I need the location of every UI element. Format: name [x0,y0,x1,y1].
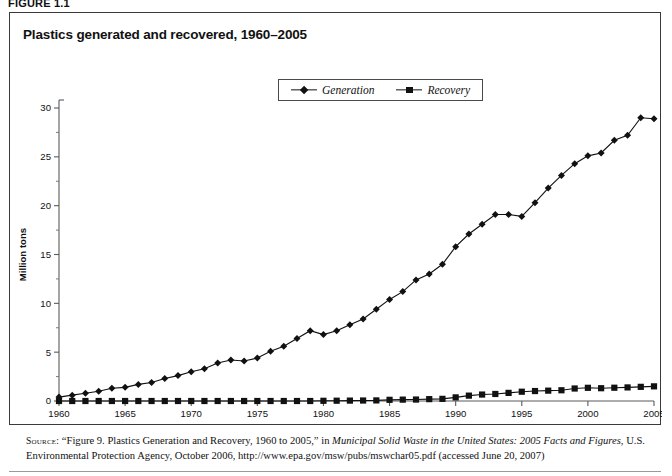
data-point-generation [227,356,234,363]
data-point-generation [122,384,129,391]
data-point-recovery [122,398,128,404]
x-axis-title: Year [346,423,367,424]
data-point-recovery [624,384,630,390]
data-point-generation [333,327,340,334]
data-point-recovery [492,391,498,397]
data-point-generation [148,379,155,386]
series-line-recovery [59,386,654,401]
x-tick-label: 2005 [643,408,662,419]
square-marker-icon [406,87,412,93]
data-point-recovery [56,398,62,404]
data-point-recovery [215,398,221,404]
data-point-recovery [267,398,273,404]
data-point-recovery [135,398,141,404]
data-point-recovery [426,396,432,402]
data-point-recovery [545,388,551,394]
data-point-recovery [294,398,300,404]
x-tick-label: 2000 [577,408,598,419]
x-tick-label: 1970 [181,408,202,419]
data-point-generation [214,359,221,366]
data-point-recovery [162,398,168,404]
data-point-recovery [479,391,485,397]
data-point-recovery [360,397,366,403]
data-point-recovery [96,398,102,404]
y-tick-label: 30 [40,102,51,113]
data-point-recovery [439,396,445,402]
data-point-recovery [466,393,472,399]
y-tick-label: 15 [40,249,51,260]
data-point-recovery [638,384,644,390]
data-point-generation [188,368,195,375]
data-point-recovery [386,397,392,403]
x-tick-label: 1995 [511,408,532,419]
data-point-generation [294,335,301,342]
data-point-recovery [373,397,379,403]
y-tick-label: 25 [40,151,51,162]
x-tick-label: 1965 [114,408,135,419]
y-tick-label: 20 [40,200,51,211]
data-point-recovery [241,398,247,404]
data-point-recovery [572,385,578,391]
data-point-recovery [558,387,564,393]
x-tick-label: 1980 [313,408,334,419]
data-point-recovery [413,396,419,402]
chart-series-group [56,114,658,404]
source-kicker: Source: [26,435,59,446]
data-point-recovery [519,389,525,395]
data-point-recovery [320,398,326,404]
data-point-recovery [611,385,617,391]
chart-axis-labels: 0510152025301960196519701975198019851990… [17,102,662,424]
source-publication-title: Municipal Solid Waste in the United Stat… [332,435,621,446]
data-point-generation [307,327,314,334]
data-point-recovery [453,394,459,400]
data-point-generation [108,385,115,392]
x-tick-label: 1985 [379,408,400,419]
data-point-recovery [254,398,260,404]
data-point-generation [254,355,261,362]
data-point-recovery [400,397,406,403]
data-point-recovery [307,398,313,404]
data-point-generation [280,343,287,350]
x-tick-label: 1960 [48,408,69,419]
data-point-recovery [228,398,234,404]
figure-label: FIGURE 1.1 [8,0,70,9]
series-line-generation [59,118,654,397]
data-point-recovery [188,398,194,404]
data-point-recovery [585,385,591,391]
data-point-recovery [281,398,287,404]
data-point-generation [95,388,102,395]
bottom-divider [9,471,661,472]
source-text-part1: “Figure 9. Plastics Generation and Recov… [62,435,332,446]
data-point-recovery [82,398,88,404]
x-tick-label: 1990 [445,408,466,419]
data-point-generation [82,390,89,397]
data-point-generation [346,321,353,328]
data-point-generation [651,115,658,122]
data-point-generation [175,372,182,379]
y-axis-title: Million tons [17,228,28,281]
y-tick-label: 5 [46,347,51,358]
data-point-recovery [598,385,604,391]
y-tick-label: 10 [40,298,51,309]
data-point-recovery [347,398,353,404]
data-point-generation [584,152,591,159]
data-point-generation [69,392,76,399]
data-point-recovery [69,398,75,404]
data-point-recovery [148,398,154,404]
data-point-recovery [175,398,181,404]
data-point-generation [135,381,142,388]
data-point-generation [161,375,168,382]
line-chart-plot: 0510152025301960196519701975198019851990… [10,13,662,424]
data-point-generation [201,365,208,372]
chart-axes [54,100,654,406]
data-point-recovery [505,390,511,396]
data-point-generation [320,331,327,338]
y-tick-label: 0 [46,395,51,406]
data-point-recovery [651,383,657,389]
x-tick-label: 1975 [247,408,268,419]
data-point-recovery [201,398,207,404]
data-point-recovery [334,398,340,404]
source-note: Source: “Figure 9. Plastics Generation a… [26,433,652,463]
data-point-recovery [109,398,115,404]
data-point-generation [267,348,274,355]
